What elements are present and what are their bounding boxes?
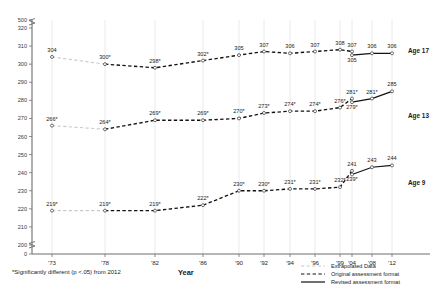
data-labels: 304300*298*302*3053073063073083073053063… — [46, 40, 396, 207]
data-point — [238, 54, 241, 57]
data-point-label: 274* — [309, 101, 321, 107]
x-tick-label: '82 — [151, 259, 160, 266]
data-point — [391, 164, 394, 167]
data-point — [104, 128, 107, 131]
data-point-label: 219* — [149, 201, 161, 207]
y-tick-label: 310 — [18, 43, 27, 49]
data-point — [314, 50, 317, 53]
data-point — [51, 209, 54, 212]
y-tick-label: 220 — [18, 206, 27, 212]
y-tick-label: 280 — [18, 97, 27, 103]
data-point — [339, 106, 342, 109]
data-point-label: 230* — [233, 181, 245, 187]
data-point-label: 273* — [258, 103, 270, 109]
data-point — [154, 119, 157, 122]
data-point — [289, 52, 292, 55]
y-tick-label: 200 — [18, 242, 27, 248]
data-point — [371, 166, 374, 169]
y-tick-label: 290 — [18, 79, 27, 85]
data-point-label: 281* — [346, 89, 358, 95]
data-point — [154, 209, 157, 212]
data-point-label: 305 — [234, 45, 243, 51]
data-point-label: 231* — [284, 179, 296, 185]
chart-container: 5003203103002902802702602502402302202102… — [0, 0, 437, 294]
data-point-label: 279* — [346, 104, 358, 110]
data-point — [314, 187, 317, 190]
data-point — [51, 124, 54, 127]
data-point — [351, 169, 354, 172]
data-point — [51, 55, 54, 58]
data-point — [289, 110, 292, 113]
data-point — [104, 63, 107, 66]
data-point-label: 308 — [335, 40, 344, 46]
x-axis: '73'78'82'86'90'92'94'96'99'04'08'12 — [32, 254, 430, 266]
data-point — [351, 97, 354, 100]
line-chart: 5003203103002902802702602502402302202102… — [0, 0, 437, 294]
y-tick-label: 240 — [18, 170, 27, 176]
series-segment-extrapolated — [52, 126, 105, 130]
data-point — [339, 186, 342, 189]
data-point-label: 307 — [259, 42, 268, 48]
plot-area — [51, 48, 394, 212]
x-tick-label: '94 — [286, 259, 295, 266]
data-point — [238, 117, 241, 120]
data-point-label: 244 — [387, 155, 396, 161]
data-point-label: 232* — [334, 177, 346, 183]
y-tick-label: 500 — [18, 17, 27, 23]
data-point-label: 269* — [149, 110, 161, 116]
data-point-label: 307 — [347, 42, 356, 48]
data-point — [351, 50, 354, 53]
x-tick-label: '04 — [348, 259, 357, 266]
data-point — [238, 189, 241, 192]
data-point-label: 306 — [387, 43, 396, 49]
x-tick-label: '73 — [48, 259, 57, 266]
y-tick-label: 250 — [18, 152, 27, 158]
x-tick-label: '92 — [260, 259, 269, 266]
data-point-label: 231* — [309, 179, 321, 185]
data-point-label: 285 — [387, 81, 396, 87]
x-tick-label: '78 — [101, 259, 110, 266]
data-point-label: 219* — [46, 201, 58, 207]
y-tick-label: 320 — [18, 25, 27, 31]
data-point-label: 305 — [347, 57, 356, 63]
data-point — [202, 59, 205, 62]
x-tick-label: '12 — [388, 259, 397, 266]
data-point-label: 219* — [99, 201, 111, 207]
x-tick-label: '08 — [368, 259, 377, 266]
data-point — [371, 97, 374, 100]
data-point-label: 230* — [258, 181, 270, 187]
data-point-label: 269* — [197, 110, 209, 116]
data-point — [104, 209, 107, 212]
data-point — [154, 66, 157, 69]
data-point-label: 304 — [47, 47, 56, 53]
data-point-label: 264* — [99, 119, 111, 125]
data-point-label: 243 — [367, 157, 376, 163]
y-tick-label: 210 — [18, 224, 27, 230]
y-axis: 5003203103002902802702602502402302202102… — [18, 17, 35, 257]
x-tick-label: '86 — [199, 259, 208, 266]
data-point-label: 222* — [197, 195, 209, 201]
series-segment-extrapolated — [52, 57, 105, 64]
data-point-label: 239* — [346, 176, 358, 182]
y-tick-label: 300 — [18, 61, 27, 67]
data-point-label: 270* — [233, 108, 245, 114]
x-tick-label: '96 — [311, 259, 320, 266]
data-point-label: 241 — [347, 161, 356, 167]
x-tick-label: '90 — [235, 259, 244, 266]
data-point — [391, 52, 394, 55]
data-point — [339, 48, 342, 51]
data-point — [289, 187, 292, 190]
data-point-label: 306 — [285, 43, 294, 49]
data-point — [263, 189, 266, 192]
data-point — [202, 204, 205, 207]
data-point — [263, 50, 266, 53]
data-point-label: 276* — [334, 98, 346, 104]
data-point-label: 306 — [367, 43, 376, 49]
data-point — [371, 52, 374, 55]
y-tick-label: 230 — [18, 188, 27, 194]
y-tick-label: 260 — [18, 134, 27, 140]
data-point-label: 307 — [310, 42, 319, 48]
data-point — [391, 90, 394, 93]
data-point-label: 298* — [149, 58, 161, 64]
data-point-label: 266* — [46, 116, 58, 122]
